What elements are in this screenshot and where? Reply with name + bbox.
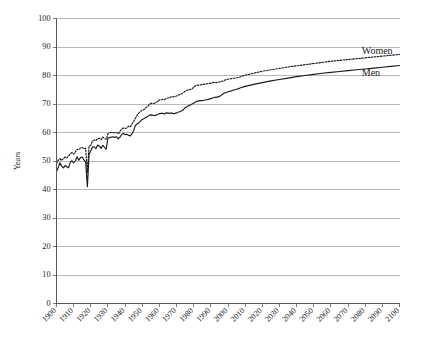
y-tick-label-30: 30 <box>42 213 50 222</box>
y-tick-label-40: 40 <box>42 185 50 194</box>
y-tick-label-20: 20 <box>42 242 50 251</box>
y-tick-label-10: 10 <box>42 270 50 279</box>
series-label-men: Men <box>362 67 380 78</box>
y-axis-title: Years <box>13 152 22 171</box>
life-expectancy-line-chart: 0102030405060708090100 19001910192019301… <box>0 0 429 344</box>
y-tick-label-90: 90 <box>42 42 50 51</box>
y-tick-label-80: 80 <box>42 71 50 80</box>
y-tick-label-70: 70 <box>42 99 50 108</box>
chart-container: 0102030405060708090100 19001910192019301… <box>0 0 429 344</box>
y-axis-title-text: Years <box>13 152 22 171</box>
series-label-women: Women <box>362 45 393 56</box>
y-tick-label-60: 60 <box>42 128 50 137</box>
y-tick-label-100: 100 <box>38 14 50 23</box>
y-tick-label-50: 50 <box>42 156 50 165</box>
